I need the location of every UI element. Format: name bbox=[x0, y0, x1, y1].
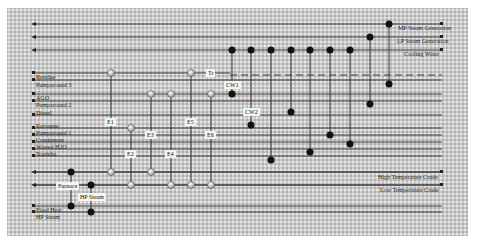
exchanger-e2: E2 bbox=[125, 150, 136, 158]
label-ago: AGO bbox=[36, 95, 49, 102]
label-low-temp-crude: Low Temperature Crude bbox=[380, 187, 439, 194]
label-naphtha: Naphtha bbox=[36, 151, 56, 158]
exchanger-e4: E4 bbox=[165, 150, 176, 158]
exchanger-e3: E3 bbox=[145, 131, 156, 139]
exchanger-e1: E1 bbox=[105, 118, 116, 126]
label-hp-steam: HP Steam bbox=[36, 214, 60, 221]
label-mp-steam: MP Steam Generation bbox=[398, 25, 451, 32]
furnace-label: Furnace bbox=[56, 182, 79, 190]
label-high-temp-crude: High Temperature Crude bbox=[378, 174, 438, 181]
label-diesel: Diesel bbox=[36, 110, 51, 117]
hp-steam-heater-label: HP Steam bbox=[78, 193, 106, 201]
label-cooling-water: Cooling Water bbox=[404, 51, 439, 58]
exchanger-e5: E5 bbox=[185, 118, 196, 126]
label-residue: Residue bbox=[36, 74, 55, 81]
exchanger-e6: E6 bbox=[205, 131, 216, 139]
cooler-cw2: CW2 bbox=[243, 108, 260, 116]
label-pumparound-2: Pumparound 2 bbox=[36, 102, 71, 109]
label-wasted-h2o: Wasted H2O bbox=[36, 144, 67, 151]
label-pumparound-1: Pumparound 1 bbox=[36, 130, 71, 137]
label-pumparound-3: Pumparound 3 bbox=[36, 82, 71, 89]
label-kerosene: Kerosene bbox=[36, 123, 59, 130]
label-fired-heat: Fired Heat bbox=[36, 207, 62, 214]
exchanger-tr: Tr bbox=[206, 69, 215, 77]
label-condensate: Condensate bbox=[36, 137, 64, 144]
cooler-cw1: CW1 bbox=[224, 81, 241, 89]
label-lp-steam: LP Steam Generation bbox=[397, 38, 448, 45]
